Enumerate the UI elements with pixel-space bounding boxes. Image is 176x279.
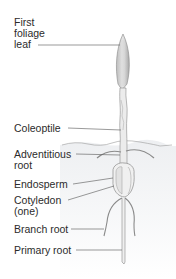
- label-line: Coleoptile: [14, 123, 61, 134]
- leader-coleoptile: [68, 128, 121, 130]
- label-first-foliage-leaf: First foliage leaf: [14, 17, 45, 50]
- seedling-diagram: First foliage leaf Coleoptile Adventitio…: [0, 0, 176, 279]
- label-line: (one): [14, 206, 61, 217]
- label-line: root: [14, 160, 71, 171]
- label-cotyledon: Cotyledon (one): [14, 195, 61, 217]
- label-endosperm: Endosperm: [14, 179, 68, 190]
- primary-root-shape: [122, 198, 125, 264]
- soil-region: [60, 140, 176, 279]
- label-coleoptile: Coleoptile: [14, 123, 61, 134]
- label-line: Endosperm: [14, 179, 68, 190]
- label-line: Branch root: [14, 224, 68, 235]
- label-line: leaf: [14, 39, 45, 50]
- label-branch-root: Branch root: [14, 224, 68, 235]
- label-primary-root: Primary root: [14, 245, 71, 256]
- label-line: Primary root: [14, 245, 71, 256]
- label-adventitious-root: Adventitious root: [14, 149, 71, 171]
